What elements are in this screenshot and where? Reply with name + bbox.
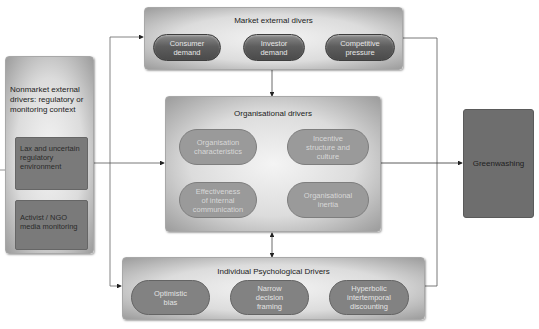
nonmarket-drivers-title: Nonmarket external drivers: regulatory o… [10, 85, 94, 115]
market-drivers-panel: Market external divers Consumer demand I… [144, 7, 403, 70]
consumer-demand-node[interactable]: Consumer demand [153, 34, 221, 61]
narrow-decision-framing-node[interactable]: Narrow decision framing [230, 280, 309, 315]
organisation-characteristics-node[interactable]: Organisation characteristics [179, 129, 257, 165]
greenwashing-label: Greenwashing [473, 159, 525, 168]
greenwashing-node[interactable]: Greenwashing [463, 109, 534, 218]
organisational-drivers-panel: Organisational drivers Organisation char… [165, 96, 381, 232]
market-drivers-title: Market external divers [145, 16, 402, 25]
lax-regulatory-node[interactable]: Lax and uncertain regulatory environment [15, 137, 88, 190]
incentive-structure-node[interactable]: Incentive structure and culture [287, 129, 369, 165]
individual-drivers-panel: Individual Psychological Drivers Optimis… [122, 257, 425, 320]
organisational-inertia-node[interactable]: Organisational inertia [287, 182, 369, 218]
investor-demand-node[interactable]: Investor demand [243, 34, 305, 61]
activist-ngo-node[interactable]: Activist / NGO media monitoring [15, 200, 88, 250]
individual-drivers-title: Individual Psychological Drivers [123, 267, 424, 276]
internal-communication-node[interactable]: Effectiveness of internal communication [179, 182, 257, 218]
competitive-pressure-node[interactable]: Competitive pressure [325, 34, 395, 61]
optimistic-bias-node[interactable]: Optimistic bias [131, 280, 210, 315]
hyperbolic-discounting-node[interactable]: Hyperbolic intertemporal discounting [329, 280, 409, 315]
organisational-drivers-title: Organisational drivers [166, 109, 380, 118]
nonmarket-drivers-panel: Nonmarket external drivers: regulatory o… [5, 56, 94, 254]
